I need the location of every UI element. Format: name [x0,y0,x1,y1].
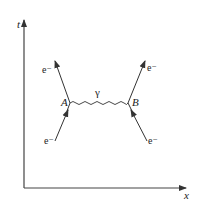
incoming-electron-left-line [55,110,68,141]
outgoing-electron-right-label: e⁻ [147,62,157,73]
vertex-b-label: B [132,96,139,108]
axes: t x [17,18,189,201]
x-axis-label: x [183,189,189,201]
vertex-a-label: A [60,96,68,108]
photon-propagator [70,102,128,105]
feynman-diagram: t x γ A B e⁻ e⁻ e⁻ e⁻ [0,0,200,203]
t-axis-label: t [17,18,21,30]
outgoing-electron-left-label: e⁻ [42,64,52,75]
incoming-electron-right-label: e⁻ [148,135,158,146]
incoming-electron-right-line [131,110,147,141]
photon-label: γ [94,86,100,98]
incoming-electron-left-label: e⁻ [44,135,54,146]
